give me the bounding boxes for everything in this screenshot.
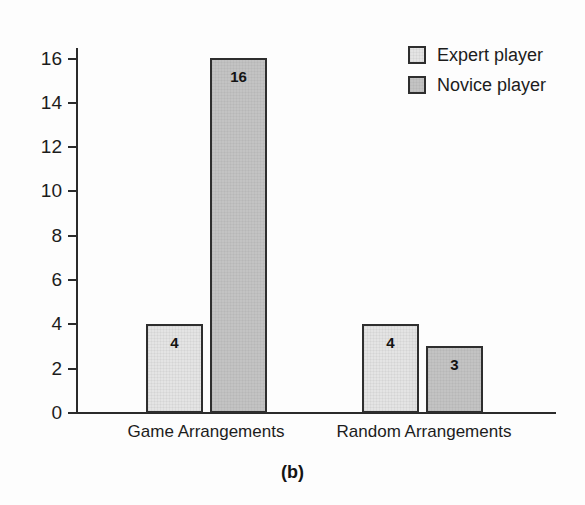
legend-label-novice-player: Novice player (437, 75, 546, 95)
y-tick-mark-8 (68, 235, 77, 237)
y-tick-4: 4 (0, 314, 62, 333)
y-tick-label-0: 0 (28, 403, 62, 422)
y-tick-mark-14 (68, 102, 77, 104)
y-tick-mark-4 (68, 323, 77, 325)
y-tick-10: 10 (0, 181, 62, 200)
bar-value-game-expert: 4 (148, 335, 201, 350)
expert-swatch-icon (408, 46, 426, 64)
bar-game-expert[interactable]: 4 (146, 324, 203, 413)
bar-chart-figure: 16 14 12 10 8 6 4 2 0 4 16 4 3 (0, 0, 585, 505)
y-tick-mark-6 (68, 279, 77, 281)
y-tick-0: 0 (0, 403, 62, 422)
y-tick-label-8: 8 (28, 226, 62, 245)
y-tick-mark-16 (68, 58, 77, 60)
bar-value-random-novice: 3 (428, 357, 481, 372)
y-tick-mark-10 (68, 190, 77, 192)
bar-game-novice[interactable]: 16 (210, 58, 267, 413)
y-tick-mark-12 (68, 146, 77, 148)
y-tick-label-6: 6 (28, 270, 62, 289)
y-tick-8: 8 (0, 226, 62, 245)
novice-swatch-icon (408, 76, 426, 94)
y-tick-14: 14 (0, 93, 62, 112)
legend: Expert player Novice player (408, 40, 546, 100)
y-tick-mark-0 (68, 412, 77, 414)
y-tick-12: 12 (0, 137, 62, 156)
y-tick-label-4: 4 (28, 314, 62, 333)
legend-item-expert-player[interactable]: Expert player (408, 40, 546, 70)
bar-random-novice[interactable]: 3 (426, 346, 483, 413)
y-tick-label-2: 2 (28, 359, 62, 378)
x-category-label-game-arrangements: Game Arrangements (106, 422, 306, 442)
y-tick-6: 6 (0, 270, 62, 289)
y-tick-label-12: 12 (28, 137, 62, 156)
x-category-label-random-arrangements: Random Arrangements (318, 422, 530, 442)
legend-label-expert-player: Expert player (437, 45, 543, 65)
legend-item-novice-player[interactable]: Novice player (408, 70, 546, 100)
y-tick-label-16: 16 (28, 49, 62, 68)
bar-value-random-expert: 4 (364, 335, 417, 350)
y-tick-mark-2 (68, 368, 77, 370)
bar-random-expert[interactable]: 4 (362, 324, 419, 413)
y-tick-16: 16 (0, 49, 62, 68)
y-tick-2: 2 (0, 359, 62, 378)
y-tick-label-10: 10 (28, 181, 62, 200)
bar-value-game-novice: 16 (212, 69, 265, 84)
y-tick-label-14: 14 (28, 93, 62, 112)
figure-caption: (b) (0, 462, 585, 483)
